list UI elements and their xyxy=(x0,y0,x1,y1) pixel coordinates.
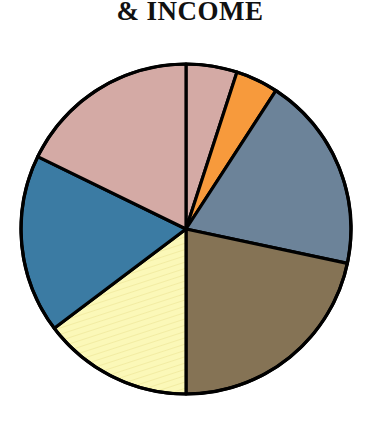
pie-chart xyxy=(0,0,380,425)
chart-page: & INCOME xyxy=(0,0,380,425)
pie-slice-group xyxy=(21,64,351,394)
pie-chart-svg xyxy=(0,0,380,425)
